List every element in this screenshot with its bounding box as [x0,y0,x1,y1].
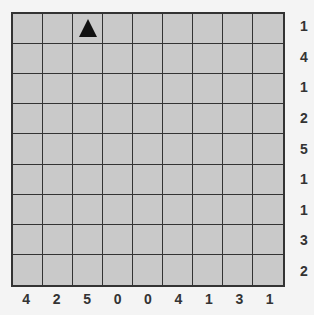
grid-cell-r7-c3[interactable] [103,225,133,255]
grid-cell-r1-c2[interactable] [73,44,103,74]
grid-cell-r6-c6[interactable] [193,195,223,225]
grid-cell-r4-c0[interactable] [13,134,43,164]
grid-cell-r1-c8[interactable] [253,44,283,74]
row-clue: 2 [297,110,311,126]
grid-cell-r6-c4[interactable] [133,195,163,225]
grid-cell-r3-c0[interactable] [13,104,43,134]
row-clue: 4 [297,49,311,65]
grid-cell-r3-c3[interactable] [103,104,133,134]
grid-cell-r4-c6[interactable] [193,134,223,164]
grid-cell-r1-c3[interactable] [103,44,133,74]
grid-cell-r0-c4[interactable] [133,14,163,44]
row-clue: 1 [297,202,311,218]
grid-cell-r3-c5[interactable] [163,104,193,134]
grid-cell-r2-c6[interactable] [193,74,223,104]
grid-cell-r1-c0[interactable] [13,44,43,74]
grid-cell-r8-c7[interactable] [223,255,253,285]
grid-cell-r1-c6[interactable] [193,44,223,74]
grid-cell-r7-c0[interactable] [13,225,43,255]
column-clue: 5 [72,291,102,307]
grid-cell-r2-c8[interactable] [253,74,283,104]
grid-cell-r7-c6[interactable] [193,225,223,255]
grid-cell-r7-c7[interactable] [223,225,253,255]
grid-cell-r0-c8[interactable] [253,14,283,44]
grid-cell-r6-c8[interactable] [253,195,283,225]
row-clue: 1 [297,79,311,95]
grid-cell-r8-c0[interactable] [13,255,43,285]
grid-cell-r0-c2[interactable] [73,14,103,44]
grid-cell-r6-c1[interactable] [43,195,73,225]
grid-cell-r5-c7[interactable] [223,165,253,195]
grid-cell-r4-c4[interactable] [133,134,163,164]
grid-cell-r5-c2[interactable] [73,165,103,195]
column-clue: 2 [42,291,72,307]
grid-cell-r8-c8[interactable] [253,255,283,285]
grid-cell-r2-c3[interactable] [103,74,133,104]
grid-cell-r4-c2[interactable] [73,134,103,164]
grid-cell-r5-c0[interactable] [13,165,43,195]
grid-cell-r2-c4[interactable] [133,74,163,104]
grid-cell-r5-c6[interactable] [193,165,223,195]
grid-cell-r8-c2[interactable] [73,255,103,285]
grid-cell-r8-c6[interactable] [193,255,223,285]
grid-cell-r7-c8[interactable] [253,225,283,255]
grid-cell-r4-c1[interactable] [43,134,73,164]
grid-cell-r2-c1[interactable] [43,74,73,104]
row-clue: 5 [297,141,311,157]
column-clue: 0 [133,291,163,307]
grid-cell-r0-c6[interactable] [193,14,223,44]
grid-cell-r3-c2[interactable] [73,104,103,134]
grid-cell-r8-c4[interactable] [133,255,163,285]
grid-cell-r7-c2[interactable] [73,225,103,255]
grid-cell-r2-c0[interactable] [13,74,43,104]
grid-cell-r1-c1[interactable] [43,44,73,74]
grid-cell-r5-c8[interactable] [253,165,283,195]
grid-cell-r2-c7[interactable] [223,74,253,104]
row-clue: 2 [297,263,311,279]
grid-cell-r7-c5[interactable] [163,225,193,255]
grid-cell-r5-c5[interactable] [163,165,193,195]
grid-cell-r1-c5[interactable] [163,44,193,74]
grid-cell-r0-c7[interactable] [223,14,253,44]
column-clue: 4 [163,291,193,307]
grid-cell-r5-c3[interactable] [103,165,133,195]
column-clue: 0 [103,291,133,307]
grid-cell-r2-c2[interactable] [73,74,103,104]
grid-cell-r4-c3[interactable] [103,134,133,164]
grid-cell-r0-c3[interactable] [103,14,133,44]
grid-cell-r8-c3[interactable] [103,255,133,285]
column-clue: 4 [11,291,41,307]
grid-cell-r7-c1[interactable] [43,225,73,255]
grid-cell-r4-c7[interactable] [223,134,253,164]
grid-cell-r6-c0[interactable] [13,195,43,225]
grid-cell-r0-c5[interactable] [163,14,193,44]
grid-cell-r0-c1[interactable] [43,14,73,44]
row-clue: 1 [297,171,311,187]
grid-cell-r5-c4[interactable] [133,165,163,195]
grid-cell-r3-c4[interactable] [133,104,163,134]
row-clue: 1 [297,18,311,34]
grid-cell-r3-c7[interactable] [223,104,253,134]
grid-cell-r3-c1[interactable] [43,104,73,134]
row-clue: 3 [297,232,311,248]
column-clue: 1 [194,291,224,307]
grid-cell-r1-c4[interactable] [133,44,163,74]
grid-cell-r4-c5[interactable] [163,134,193,164]
grid-cell-r5-c1[interactable] [43,165,73,195]
triangle-icon [79,19,97,37]
grid-cell-r0-c0[interactable] [13,14,43,44]
grid-cell-r6-c2[interactable] [73,195,103,225]
grid-cell-r4-c8[interactable] [253,134,283,164]
grid-cell-r3-c6[interactable] [193,104,223,134]
grid-cell-r8-c1[interactable] [43,255,73,285]
column-clue: 1 [255,291,285,307]
grid-cell-r1-c7[interactable] [223,44,253,74]
grid-cell-r6-c3[interactable] [103,195,133,225]
grid-cell-r3-c8[interactable] [253,104,283,134]
grid-cell-r7-c4[interactable] [133,225,163,255]
grid-cell-r6-c5[interactable] [163,195,193,225]
column-clue: 3 [224,291,254,307]
grid-cell-r2-c5[interactable] [163,74,193,104]
grid-cell-r6-c7[interactable] [223,195,253,225]
grid-cell-r8-c5[interactable] [163,255,193,285]
